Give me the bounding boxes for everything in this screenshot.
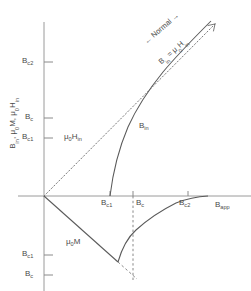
x-axis-label: Bapp — [215, 201, 230, 209]
y-tick-label-neg-bc1: Bc1 — [22, 250, 33, 258]
y-tick-label-bc: Bc — [25, 113, 33, 121]
curve-label-mu0m: μ0M — [66, 238, 80, 246]
curve-label-mu0hin: μ0Hin — [64, 133, 82, 141]
y-tick-label-bc2: Bc2 — [22, 57, 33, 65]
mu0hin-dotted-line — [44, 24, 215, 196]
figure-container: Bin, μ0M, μ0Hin Bc2 Bc Bc1 Bc1 Bc Bc1 Bc… — [0, 0, 251, 291]
x-tick-label-bc2: Bc2 — [179, 199, 190, 207]
y-tick-label-bc1: Bc1 — [22, 133, 33, 141]
y-axis-label: Bin, μ0M, μ0Hin — [8, 85, 19, 161]
mu0m-extrapolation-dashed — [118, 262, 137, 279]
x-tick-label-bc: Bc — [136, 199, 144, 207]
bin-curve — [110, 21, 211, 196]
curve-label-bin: Bin — [139, 122, 149, 130]
mu0m-curve — [118, 196, 208, 262]
x-tick-label-bc1: Bc1 — [101, 199, 112, 207]
chart-svg — [0, 0, 251, 291]
x-tick-marks — [110, 191, 188, 196]
y-tick-marks — [44, 62, 53, 275]
y-tick-label-neg-bc: Bc — [25, 270, 33, 278]
